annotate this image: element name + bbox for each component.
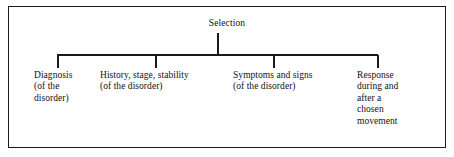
connector-drop-response xyxy=(377,55,379,68)
node-diagnosis: Diagnosis (of the disorder) xyxy=(34,70,72,104)
connector-drop-history xyxy=(155,55,157,68)
node-response: Response during and after a chosen movem… xyxy=(357,70,398,127)
root-node-selection: Selection xyxy=(0,17,454,29)
connector-drop-symptoms xyxy=(273,55,275,68)
connector-root-stem xyxy=(217,33,219,55)
node-history-line-2: (of the disorder) xyxy=(100,81,189,92)
connector-drop-diagnosis xyxy=(57,55,59,68)
node-symptoms-line-1: Symptoms and signs xyxy=(233,70,313,81)
node-history-stage-stability: History, stage, stability (of the disord… xyxy=(100,70,189,93)
node-response-line-4: chosen xyxy=(357,104,398,115)
node-diagnosis-line-1: Diagnosis xyxy=(34,70,72,81)
connector-horizontal-bus xyxy=(57,54,378,56)
tree-diagram: Selection Diagnosis (of the disorder) Hi… xyxy=(0,0,454,157)
node-symptoms-and-signs: Symptoms and signs (of the disorder) xyxy=(233,70,313,93)
node-symptoms-line-2: (of the disorder) xyxy=(233,81,313,92)
node-response-line-5: movement xyxy=(357,116,398,127)
node-response-line-2: during and xyxy=(357,81,398,92)
node-history-line-1: History, stage, stability xyxy=(100,70,189,81)
node-diagnosis-line-3: disorder) xyxy=(34,93,72,104)
node-diagnosis-line-2: (of the xyxy=(34,81,72,92)
node-response-line-3: after a xyxy=(357,93,398,104)
node-response-line-1: Response xyxy=(357,70,398,81)
